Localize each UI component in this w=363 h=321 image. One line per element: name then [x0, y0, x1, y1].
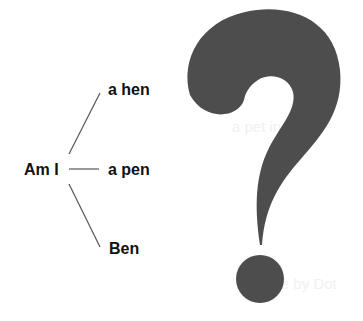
branch-line-hen	[69, 93, 100, 154]
branch-label-ben: Ben	[109, 241, 139, 257]
branch-label-pen: a pen	[108, 162, 150, 178]
branch-label-hen: a hen	[108, 82, 150, 98]
diagram-canvas: for a pat a pet in a rug cuddle by Dot A…	[0, 0, 363, 321]
branch-line-ben	[69, 184, 100, 247]
root-label: Am I	[24, 162, 59, 178]
